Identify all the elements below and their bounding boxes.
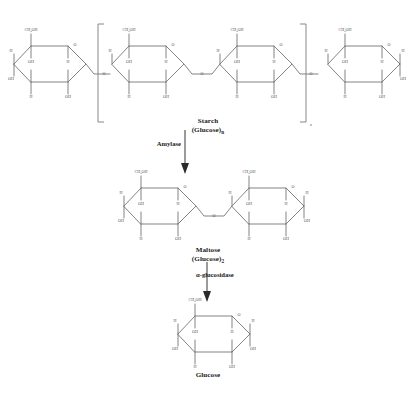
svg-text:H: H bbox=[177, 201, 180, 206]
svg-text:H: H bbox=[273, 59, 276, 64]
svg-text:O: O bbox=[74, 42, 77, 47]
starch-name: Starch bbox=[198, 117, 219, 125]
svg-text:H: H bbox=[10, 48, 13, 53]
svg-text:H: H bbox=[128, 94, 131, 99]
svg-text:H: H bbox=[109, 48, 112, 53]
maltose-name: Maltose bbox=[196, 246, 221, 254]
svg-text:O: O bbox=[310, 71, 313, 76]
label-starch: Starch (Glucose)n bbox=[0, 117, 416, 136]
svg-text:OH: OH bbox=[379, 94, 385, 99]
label-glucose: Glucose bbox=[0, 371, 416, 380]
svg-text:H: H bbox=[344, 94, 347, 99]
svg-text:OH: OH bbox=[163, 94, 169, 99]
glucose-ring-3: CH2OH O H OH H H OH bbox=[217, 27, 292, 99]
glucose-name: Glucose bbox=[196, 371, 221, 379]
svg-text:OH: OH bbox=[304, 218, 310, 223]
reaction-arrow-glucosidase bbox=[203, 262, 211, 302]
svg-text:H: H bbox=[306, 190, 309, 195]
svg-text:OH: OH bbox=[138, 201, 144, 206]
maltose-ring-2: CH2OH O H OH H H OH H OH bbox=[229, 169, 310, 241]
svg-text:H: H bbox=[252, 318, 255, 323]
glucose-ring-1: CH2OH O H OH OH H H OH bbox=[8, 27, 86, 99]
svg-text:CH2OH: CH2OH bbox=[230, 27, 243, 33]
glucose-ring-2: CH2OH O H OH H H OH bbox=[109, 27, 184, 99]
svg-text:OH: OH bbox=[172, 346, 178, 351]
svg-text:OH: OH bbox=[118, 218, 124, 223]
svg-text:OH: OH bbox=[65, 94, 71, 99]
svg-text:H: H bbox=[30, 94, 33, 99]
reaction-arrow-amylase bbox=[181, 130, 189, 174]
enzyme-label-amylase: Amylase bbox=[108, 140, 181, 147]
structure-canvas: CH2OH O H OH OH H H OH O CH2OH O H bbox=[0, 0, 416, 393]
svg-text:H: H bbox=[248, 236, 251, 241]
svg-text:H: H bbox=[194, 364, 197, 369]
svg-text:H: H bbox=[325, 48, 328, 53]
reaction-diagram: CH2OH O H OH OH H H OH O CH2OH O H bbox=[0, 0, 416, 393]
svg-text:CH2OH: CH2OH bbox=[24, 27, 37, 33]
svg-text:O: O bbox=[172, 42, 175, 47]
svg-text:H: H bbox=[381, 59, 384, 64]
svg-text:H: H bbox=[402, 48, 405, 53]
svg-text:CH2OH: CH2OH bbox=[242, 169, 255, 175]
svg-text:O: O bbox=[103, 71, 106, 76]
svg-text:CH2OH: CH2OH bbox=[188, 297, 201, 303]
svg-text:O: O bbox=[388, 42, 391, 47]
maltose-ring-1: CH2OH O H OH OH H H OH bbox=[118, 169, 196, 241]
svg-text:OH: OH bbox=[250, 346, 256, 351]
svg-text:OH: OH bbox=[400, 76, 406, 81]
svg-text:OH: OH bbox=[283, 236, 289, 241]
svg-text:OH: OH bbox=[271, 94, 277, 99]
svg-text:H: H bbox=[165, 59, 168, 64]
svg-text:H: H bbox=[231, 329, 234, 334]
svg-text:CH2OH: CH2OH bbox=[122, 27, 135, 33]
svg-text:H: H bbox=[217, 48, 220, 53]
svg-text:O: O bbox=[184, 184, 187, 189]
svg-text:OH: OH bbox=[234, 59, 240, 64]
svg-text:OH: OH bbox=[246, 201, 252, 206]
svg-text:OH: OH bbox=[28, 59, 34, 64]
svg-text:OH: OH bbox=[229, 364, 235, 369]
svg-text:OH: OH bbox=[175, 236, 181, 241]
starch-formula: (Glucose)n bbox=[192, 126, 225, 134]
svg-text:OH: OH bbox=[342, 59, 348, 64]
svg-text:H: H bbox=[120, 190, 123, 195]
glucose-ring-final: CH2OH O H OH OH H H OH H OH bbox=[172, 297, 256, 369]
maltose-formula: (Glucose)2 bbox=[192, 255, 224, 263]
svg-text:O: O bbox=[201, 71, 204, 76]
svg-text:O: O bbox=[213, 213, 216, 218]
svg-text:H: H bbox=[229, 190, 232, 195]
svg-text:H: H bbox=[67, 59, 70, 64]
svg-text:O: O bbox=[238, 312, 241, 317]
bracket-right bbox=[300, 24, 306, 122]
svg-text:OH: OH bbox=[8, 76, 14, 81]
svg-text:H: H bbox=[285, 201, 288, 206]
svg-text:H: H bbox=[174, 318, 177, 323]
svg-text:OH: OH bbox=[192, 329, 198, 334]
glucose-ring-4: CH2OH O H OH H H OH H OH bbox=[325, 27, 406, 99]
svg-text:OH: OH bbox=[126, 59, 132, 64]
enzyme-label-alpha-glucosidase: α-glucosidase bbox=[196, 271, 274, 278]
svg-text:O: O bbox=[292, 184, 295, 189]
svg-text:CH2OH: CH2OH bbox=[338, 27, 351, 33]
label-maltose: Maltose (Glucose)2 bbox=[0, 246, 416, 265]
svg-text:H: H bbox=[236, 94, 239, 99]
svg-text:CH2OH: CH2OH bbox=[134, 169, 147, 175]
svg-text:H: H bbox=[140, 236, 143, 241]
svg-text:O: O bbox=[280, 42, 283, 47]
